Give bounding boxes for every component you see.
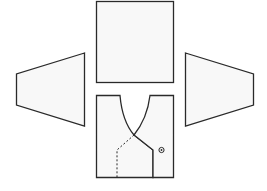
pattern-diagram — [0, 0, 267, 191]
back-panel — [97, 2, 174, 83]
left-sleeve — [17, 53, 85, 126]
right-sleeve — [186, 53, 254, 126]
